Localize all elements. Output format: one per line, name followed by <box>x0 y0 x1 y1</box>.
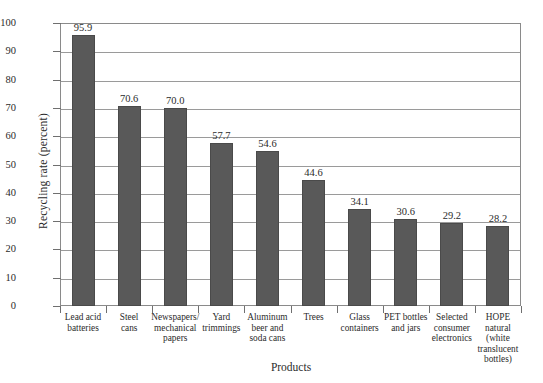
y-tick-mark <box>53 136 61 137</box>
category-label-line: papers <box>151 333 199 344</box>
y-tick-label: 50 <box>0 160 16 170</box>
category-label-line: Yard <box>197 312 245 323</box>
y-tick-label: 40 <box>0 188 16 198</box>
y-tick-label: 20 <box>0 244 16 254</box>
y-tick-mark <box>53 249 61 250</box>
y-tick-mark <box>53 80 61 81</box>
bar <box>440 223 463 306</box>
category-label-line: mechanical <box>151 323 199 334</box>
category-label: Selectedconsumerelectronics <box>428 312 476 344</box>
category-label-line: soda cans <box>243 333 291 344</box>
category-label-line: consumer <box>428 323 476 334</box>
y-tick-mark <box>53 108 61 109</box>
y-tick-label: 70 <box>0 103 16 113</box>
category-label-line: Selected <box>428 312 476 323</box>
y-tick-label: 80 <box>0 75 16 85</box>
bar-value-label: 70.0 <box>150 95 200 106</box>
category-label: Aluminumbeer andsoda cans <box>243 312 291 344</box>
bar-value-label: 28.2 <box>473 213 523 224</box>
y-tick-mark <box>53 193 61 194</box>
bar <box>118 106 141 306</box>
y-tick-label: 30 <box>0 216 16 226</box>
bar <box>72 35 95 306</box>
category-label-line: Steel <box>105 312 153 323</box>
category-label: Trees <box>290 312 338 323</box>
category-label-line: electronics <box>428 333 476 344</box>
y-tick-label: 10 <box>0 273 16 283</box>
category-label-line: Newspapers/ <box>151 312 199 323</box>
bar <box>302 180 325 306</box>
y-tick-mark <box>53 278 61 279</box>
gridline <box>61 81 520 82</box>
category-label-line: (white <box>474 333 522 344</box>
recycling-rate-bar-chart: Recycling rate (percent) 010203040506070… <box>0 0 543 383</box>
bar <box>486 226 509 306</box>
category-label-line: cans <box>105 323 153 334</box>
category-label-line: Trees <box>290 312 338 323</box>
category-label-line: containers <box>336 323 384 334</box>
bar-value-label: 95.9 <box>58 22 108 33</box>
category-label: HOPE natural(whitetranslucentbottles) <box>474 312 522 365</box>
bar <box>256 151 279 306</box>
bar-value-label: 29.2 <box>427 210 477 221</box>
y-tick-label: 60 <box>0 131 16 141</box>
category-label-line: Lead acid <box>59 312 107 323</box>
category-label: Steelcans <box>105 312 153 333</box>
category-label: Lead acidbatteries <box>59 312 107 333</box>
gridline <box>61 52 520 53</box>
category-label-line: PET bottles <box>382 312 430 323</box>
category-label-line: Glass <box>336 312 384 323</box>
y-axis-title: Recycling rate (percent) <box>37 51 49 291</box>
x-axis-title: Products <box>60 361 522 373</box>
category-label-line: batteries <box>59 323 107 334</box>
category-label-line: and jars <box>382 323 430 334</box>
category-label: Yardtrimmings <box>197 312 245 333</box>
category-label-line: trimmings <box>197 323 245 334</box>
category-label-line: beer and <box>243 323 291 334</box>
bar <box>164 108 187 306</box>
category-label: Newspapers/mechanicalpapers <box>151 312 199 344</box>
category-label: PET bottlesand jars <box>382 312 430 333</box>
y-tick-label: 90 <box>0 46 16 56</box>
bar-value-label: 34.1 <box>335 196 385 207</box>
bar-value-label: 57.7 <box>196 130 246 141</box>
category-label: Glasscontainers <box>336 312 384 333</box>
bar <box>394 219 417 306</box>
bar-value-label: 70.6 <box>104 93 154 104</box>
category-label-line: HOPE natural <box>474 312 522 333</box>
bar <box>348 209 371 306</box>
y-tick-label: 100 <box>0 18 16 28</box>
category-label-line: Aluminum <box>243 312 291 323</box>
bar-value-label: 44.6 <box>289 167 339 178</box>
y-tick-mark <box>53 51 61 52</box>
y-tick-mark <box>53 165 61 166</box>
bar-value-label: 54.6 <box>242 138 292 149</box>
bar-value-label: 30.6 <box>381 206 431 217</box>
bar <box>210 143 233 306</box>
category-label-line: translucent <box>474 344 522 355</box>
y-tick-mark <box>53 221 61 222</box>
y-tick-label: 0 <box>0 301 16 311</box>
